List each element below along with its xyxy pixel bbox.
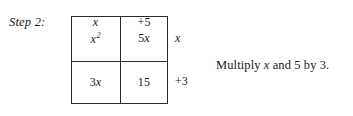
row-label-0: x: [175, 31, 180, 46]
step-label: Step 2:: [9, 15, 45, 30]
grid-cell-row0-col1-text: 5x: [138, 31, 150, 46]
grid-cell-row1-col0-text: 3x: [90, 75, 102, 90]
grid-cell-row0-col1: 5x: [120, 16, 168, 61]
grid-cell-row0-col1-variable: x: [144, 31, 150, 45]
grid-cell-row0-col0-exponent: 2: [96, 31, 100, 40]
grid-cell-row1-col1: 15: [120, 61, 168, 104]
grid-cell-row1-col0: 3x: [71, 61, 120, 104]
annotation-text: Multiply x and 5 by 3.: [216, 58, 329, 73]
grid-cell-row0-col0-text: x2: [90, 31, 100, 47]
area-model-grid: x +5 x2 5x 3x 15 x +3: [71, 16, 168, 104]
row-label-1-text: +3: [175, 74, 188, 88]
annotation-prefix: Multiply: [216, 58, 264, 72]
row-label-0-text: x: [175, 31, 180, 45]
grid-cell-row1-col0-variable: x: [96, 75, 102, 89]
annotation-suffix: and 5 by 3.: [269, 58, 329, 72]
grid-cell-row1-col1-text: 15: [138, 75, 150, 90]
row-label-1: +3: [175, 74, 188, 89]
grid-cell-row0-col0: x2: [71, 16, 120, 61]
